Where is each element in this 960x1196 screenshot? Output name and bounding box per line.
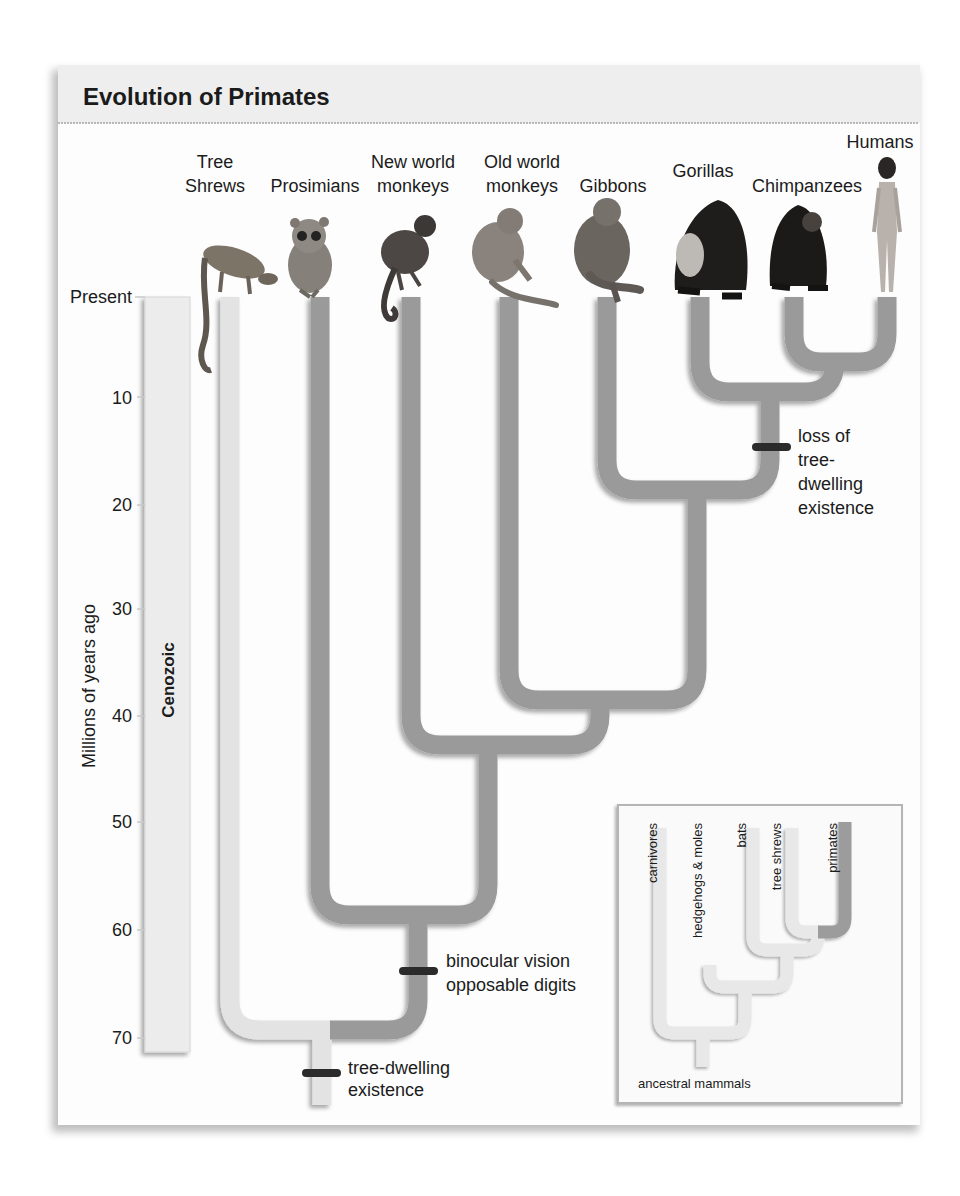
inset-label-bats: bats <box>734 823 749 848</box>
tick-60: 60 <box>112 920 132 940</box>
taxon-label-old-world-monkeys-2: monkeys <box>486 176 558 196</box>
trait-tree-dwelling-1: tree-dwelling <box>348 1058 450 1078</box>
taxon-label-tree-shrews-1: Tree <box>197 152 233 172</box>
inset-label-primates: primates <box>825 823 840 873</box>
trait-loss-2: tree- <box>798 450 835 470</box>
trait-loss-4: existence <box>798 498 874 518</box>
taxon-label-gibbons: Gibbons <box>579 176 646 196</box>
era-label: Cenozoic <box>159 642 178 718</box>
primate-evolution-diagram: Evolution of Primates Tree Shrews Prosim… <box>0 0 960 1196</box>
trait-loss-1: loss of <box>798 426 851 446</box>
tick-40: 40 <box>112 706 132 726</box>
taxon-label-humans: Humans <box>846 132 913 152</box>
axis-title: Millions of years ago <box>79 604 99 768</box>
inset-mammal-tree: carnivores hedgehogs & moles bats tree s… <box>618 805 902 1103</box>
taxon-label-new-world-monkeys-1: New world <box>371 152 455 172</box>
trait-binocular-1: binocular vision <box>446 951 570 971</box>
inset-label-hedgehogs-moles: hedgehogs & moles <box>690 823 705 938</box>
taxon-label-new-world-monkeys-2: monkeys <box>377 176 449 196</box>
figure-title: Evolution of Primates <box>83 83 330 110</box>
tick-10: 10 <box>112 388 132 408</box>
tick-20: 20 <box>112 495 132 515</box>
tick-30: 30 <box>112 599 132 619</box>
taxon-label-prosimians: Prosimians <box>270 176 359 196</box>
trait-loss-3: dwelling <box>798 474 863 494</box>
taxon-label-tree-shrews-2: Shrews <box>185 176 245 196</box>
tick-70: 70 <box>112 1028 132 1048</box>
taxon-label-old-world-monkeys-1: Old world <box>484 152 560 172</box>
trait-tree-dwelling-2: existence <box>348 1080 424 1100</box>
taxon-label-chimpanzees: Chimpanzees <box>752 176 862 196</box>
trait-binocular-2: opposable digits <box>446 975 576 995</box>
inset-label-carnivores: carnivores <box>645 823 660 883</box>
inset-label-ancestral-mammals: ancestral mammals <box>638 1076 751 1091</box>
taxon-label-gorillas: Gorillas <box>672 161 733 181</box>
inset-label-tree-shrews: tree shrews <box>769 823 784 891</box>
tick-50: 50 <box>112 812 132 832</box>
tick-present: Present <box>70 287 132 307</box>
